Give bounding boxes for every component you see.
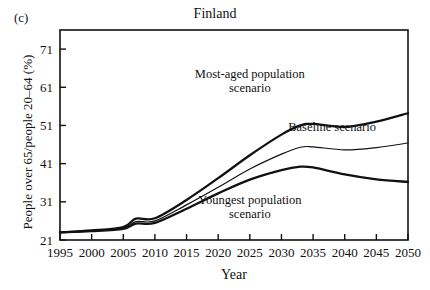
x-axis-tick-label: 2020 bbox=[205, 245, 231, 260]
y-axis-tick-label: 41 bbox=[40, 156, 53, 171]
x-axis-tick-label: 2025 bbox=[237, 245, 263, 260]
series-annotation-1: Baseline scenario bbox=[288, 120, 376, 134]
x-axis-tick-label: 2010 bbox=[142, 245, 168, 260]
series-annotation-2: Youngest populationscenario bbox=[198, 193, 302, 221]
y-axis-tick-label: 21 bbox=[40, 233, 53, 248]
x-axis-tick-label: 2000 bbox=[79, 245, 105, 260]
x-axis-tick-label: 2015 bbox=[174, 245, 200, 260]
series-annotation-0: Most-aged populationscenario bbox=[195, 67, 306, 95]
annotation-line: scenario bbox=[229, 81, 271, 95]
x-axis-tick-label: 2050 bbox=[395, 245, 421, 260]
annotation-line: Most-aged population bbox=[195, 67, 306, 81]
x-axis-tick-label: 2035 bbox=[300, 245, 326, 260]
y-axis-tick-label: 61 bbox=[40, 80, 53, 95]
chart-figure: (c) Finland People over 65/people 20–64 … bbox=[0, 0, 430, 290]
annotation-line: Youngest population bbox=[198, 193, 302, 207]
annotation-line: scenario bbox=[229, 207, 271, 221]
x-axis-tick-label: 2005 bbox=[110, 245, 136, 260]
x-axis-tick-label: 2030 bbox=[268, 245, 294, 260]
y-axis-tick-label: 51 bbox=[40, 118, 53, 133]
line-chart-plot: 1995200020052010201520202025203020352040… bbox=[0, 0, 430, 290]
x-axis-tick-label: 2040 bbox=[332, 245, 358, 260]
y-axis-tick-label: 71 bbox=[40, 42, 53, 57]
x-axis-tick-label: 2045 bbox=[363, 245, 389, 260]
annotation-line: Baseline scenario bbox=[288, 120, 376, 134]
y-axis-tick-label: 31 bbox=[40, 194, 53, 209]
